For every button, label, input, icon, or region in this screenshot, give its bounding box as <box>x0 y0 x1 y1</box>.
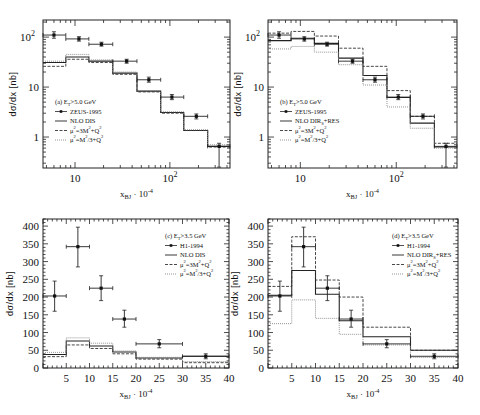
legend-title: (c) ET​>3.5 GeV <box>165 232 207 241</box>
data-marker <box>325 43 328 46</box>
text-span: +Q <box>201 261 210 268</box>
x-tick-label: 30 <box>177 372 189 384</box>
data-marker <box>444 145 447 148</box>
panel-d: 510152025303540050100150200250300350400x… <box>230 219 464 400</box>
text-span: /3+Q <box>88 136 102 143</box>
legend-label: ZEUS-1995 <box>295 108 326 115</box>
text-span: =3M <box>76 127 89 134</box>
legend-label: μ2​=M2​/3+Q2​ <box>295 134 329 143</box>
x-axis-label: xBJ​ · 10-4​ <box>120 387 154 400</box>
x-tick-label: 10 <box>310 372 322 384</box>
legend: (a) ET​>5.0 GeVZEUS-1995NLO DISμ2​=3M2​+… <box>55 98 104 143</box>
legend-label: μ2​=3M2​+Q2​ <box>180 259 212 268</box>
y-tick-label: 100 <box>23 327 40 339</box>
data-marker <box>385 342 388 345</box>
data-point <box>268 281 292 311</box>
text-span: NLO DIS <box>70 117 96 124</box>
text-span: ZEUS-1995 <box>70 108 101 115</box>
text-span: NLO DIR <box>295 117 322 124</box>
y-tick-label: 1 <box>259 131 265 143</box>
superscript: 2 <box>438 268 441 273</box>
y-axis-label: dσ/dx [nb] <box>5 271 15 316</box>
legend-label: H1-1994 <box>180 242 204 249</box>
data-point <box>113 59 137 63</box>
data-marker <box>100 43 103 46</box>
data-point <box>363 340 411 348</box>
text-span: (d) E <box>392 232 405 240</box>
data-marker <box>433 355 436 358</box>
data-marker <box>204 355 207 358</box>
superscript: 2 <box>326 134 329 139</box>
data-point <box>161 95 184 100</box>
x-tick-label: 5 <box>289 372 295 384</box>
y-tick-label: 102 <box>20 29 35 43</box>
text-span: (c) E <box>165 232 178 240</box>
superscript: 2 <box>436 259 439 264</box>
data-marker <box>158 342 161 345</box>
x-tick-label: 25 <box>381 372 393 384</box>
x-tick-label: 35 <box>429 372 441 384</box>
legend: (b) ET​>5.0 GeVZEUS-1995NLO DIRS​+RESμ2​… <box>280 98 340 143</box>
text-span: NLO DIR <box>407 251 434 258</box>
data-marker <box>303 37 306 40</box>
legend-marker <box>397 244 400 247</box>
y-tick-label: 350 <box>248 238 265 250</box>
panel-a: 10102110102xBJ​ · 10-4​dσ/dx [nb](a) ET​… <box>8 20 230 200</box>
data-marker <box>123 317 126 320</box>
x-tick-label: 30 <box>405 372 417 384</box>
legend-title: (b) ET​>5.0 GeV <box>280 98 322 107</box>
text-span: NLO DIS <box>180 251 206 258</box>
text-span: +Q <box>316 127 325 134</box>
figure-canvas: 10102110102xBJ​ · 10-4​dσ/dx [nb](a) ET​… <box>0 0 480 415</box>
data-point <box>183 354 230 359</box>
text-span: · 10 <box>131 189 148 199</box>
plot-frame <box>43 20 230 168</box>
panel-b: 10102110102xBJ​ · 10-4​dσ/dx [nb](b) ET​… <box>233 20 457 200</box>
y-axis-label: dσ/dx [nb] <box>233 71 243 116</box>
data-marker <box>351 60 354 63</box>
text-span: (b) E <box>280 98 293 106</box>
x-tick-label: 40 <box>453 372 465 384</box>
y-tick-label: 0 <box>34 362 40 374</box>
data-point <box>43 281 66 311</box>
y-tick-label: 10 <box>28 81 40 93</box>
data-marker <box>125 60 128 63</box>
y-tick-label: 250 <box>248 273 265 285</box>
text-span: =M <box>186 270 196 277</box>
x-tick-label: 20 <box>131 372 143 384</box>
data-point <box>316 276 340 301</box>
data-point <box>292 227 316 267</box>
y-tick-label: 0 <box>259 362 265 374</box>
text-span: =M <box>413 270 423 277</box>
data-point <box>137 77 161 82</box>
data-point <box>387 95 410 100</box>
text-span: +RES <box>324 117 340 124</box>
text-span: (a) E <box>55 98 68 106</box>
data-point <box>363 77 387 82</box>
legend-marker <box>60 110 63 113</box>
superscript: 2 <box>256 29 260 38</box>
x-tick-label: 10 <box>295 172 307 184</box>
data-point <box>89 42 113 46</box>
text-span: =3M <box>413 261 426 268</box>
data-point <box>90 276 113 301</box>
x-axis-label: xBJ​ · 10-4​ <box>346 187 380 200</box>
x-axis-label: xBJ​ · 10-4​ <box>347 387 381 400</box>
x-tick-label: 20 <box>358 372 370 384</box>
x-tick-label: 10 <box>84 372 96 384</box>
legend: (d) ET​>3.5 GeVH1-1994NLO DIRS​+RESμ2​=3… <box>392 232 452 277</box>
x-tick-label: 102 <box>389 170 404 184</box>
text-span: H1-1994 <box>407 242 431 249</box>
legend-title: (d) ET​>3.5 GeV <box>392 232 434 241</box>
data-marker <box>100 287 103 290</box>
y-tick-label: 300 <box>248 256 265 268</box>
legend-label: μ2​=M2​/3+Q2​ <box>407 268 441 277</box>
text-span: =M <box>76 136 86 143</box>
text-span: >5.0 GeV <box>71 98 97 105</box>
y-tick-label: 400 <box>248 220 265 232</box>
text-span: · 10 <box>131 389 148 399</box>
axis-ticks <box>268 20 457 168</box>
superscript: -4 <box>148 187 154 194</box>
data-marker <box>278 294 281 297</box>
y-axis-label: dσ/dx [nb] <box>8 71 18 116</box>
